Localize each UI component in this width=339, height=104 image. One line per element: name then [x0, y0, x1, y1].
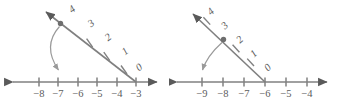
axis-tick-label: −7	[52, 88, 63, 99]
ray-label: 2	[102, 31, 114, 43]
axis-tick-label: −5	[280, 88, 291, 99]
axis-tick-label: −4	[111, 88, 123, 99]
axis-tick-label: −7	[238, 88, 249, 99]
ray-label: 0	[133, 61, 145, 73]
ray-tick	[247, 59, 254, 66]
ray-label: 1	[248, 48, 259, 60]
axis-tick-label: −4	[301, 88, 313, 99]
axis-tick-label: −6	[259, 88, 270, 99]
ray-label: 4	[66, 3, 78, 15]
ray-label: 3	[85, 17, 97, 30]
axis-tick-label: −6	[72, 88, 83, 99]
ray-label: 4	[205, 5, 217, 17]
right-diagram-svg: −9 −8 −7 −6 −5 −4 0 1 2 3 4	[169, 0, 339, 104]
ray-label: 0	[262, 61, 274, 73]
diagram-panel-right: −9 −8 −7 −6 −5 −4 0 1 2 3 4	[169, 0, 339, 104]
diagram-panel-left: −8 −7 −6 −5 −4 −3 0 1 2 3 4	[0, 0, 170, 104]
number-line-figure: −8 −7 −6 −5 −4 −3 0 1 2 3 4	[0, 0, 339, 104]
ray-label: 1	[119, 45, 130, 57]
sweep-arrow-right	[203, 43, 223, 71]
axis-tick-label: −8	[33, 88, 44, 99]
marked-point-right	[221, 37, 226, 42]
axis-tick-label: −5	[91, 88, 102, 99]
left-diagram-svg: −8 −7 −6 −5 −4 −3 0 1 2 3 4	[0, 0, 170, 104]
axis-tick-label: −3	[130, 88, 141, 99]
ray-label: 3	[218, 20, 230, 32]
axis-tick-label: −9	[196, 88, 207, 99]
ray-tick	[233, 45, 240, 52]
counting-ray-right	[193, 14, 265, 82]
ray-tick	[203, 17, 210, 24]
sweep-arrow-left	[50, 27, 59, 71]
ray-label: 2	[234, 33, 246, 45]
marked-point-left	[58, 21, 63, 26]
axis-tick-label: −8	[217, 88, 228, 99]
